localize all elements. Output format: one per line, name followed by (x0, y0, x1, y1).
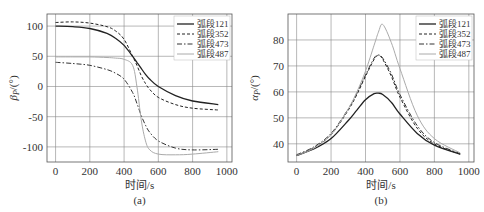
x-axis-label-a: 时间/s (125, 179, 154, 191)
x-tick-label: 0 (294, 165, 300, 177)
legend-label: 弧段352 (197, 28, 229, 39)
y-tick-label: 0 (38, 80, 44, 92)
series-line (56, 62, 219, 150)
x-tick-label: 400 (357, 165, 374, 177)
y-tick-label: 50 (273, 112, 285, 124)
x-tick-label: 400 (116, 165, 133, 177)
y-ticks-a: 100500-50-100 (23, 20, 44, 153)
y-axis-label-a: βP/(°) (7, 75, 21, 101)
x-tick-label: 0 (53, 165, 59, 177)
x-tick-label: 200 (82, 165, 99, 177)
series-line (297, 93, 461, 156)
legend-label: 弧段473 (439, 38, 471, 49)
x-axis-label-b: 时间/s (366, 179, 395, 191)
legend-label: 弧段487 (197, 48, 229, 59)
legend-b: 弧段121弧段352弧段473弧段487 (416, 16, 472, 60)
x-ticks-b: 02004006008001000 (294, 165, 480, 177)
y-tick-label: 100 (27, 20, 44, 32)
series-line (297, 56, 461, 156)
chart-panel-b: 02004006008001000 8070605040 弧段121弧段352弧… (248, 14, 480, 207)
x-tick-label: 200 (323, 165, 340, 177)
legend-label: 弧段121 (197, 18, 229, 29)
y-axis-unit-a: /(°) (7, 75, 20, 90)
y-axis-label-b: αP/(°) (248, 75, 262, 101)
panel-label-b: (b) (375, 194, 388, 207)
chart-panel-a: 02004006008001000 100500-50-100 弧段121弧段3… (7, 14, 238, 207)
legend-label: 弧段121 (439, 18, 471, 29)
series-line (56, 57, 219, 155)
x-tick-label: 600 (150, 165, 167, 177)
panel-label-a: (a) (133, 194, 146, 207)
legend-label: 弧段487 (439, 48, 471, 59)
x-ticks-a: 02004006008001000 (53, 165, 239, 177)
y-tick-label: -100 (23, 141, 44, 153)
x-tick-label: 600 (392, 165, 409, 177)
y-tick-label: 70 (273, 60, 285, 72)
y-ticks-b: 8070605040 (273, 34, 285, 150)
x-tick-label: 1000 (458, 165, 481, 177)
y-tick-label: 40 (273, 138, 285, 150)
legend-label: 弧段352 (439, 28, 471, 39)
x-tick-label: 800 (426, 165, 443, 177)
x-tick-label: 1000 (216, 165, 239, 177)
legend-a: 弧段121弧段352弧段473弧段487 (174, 16, 230, 60)
legend-label: 弧段473 (197, 38, 229, 49)
y-tick-label: -50 (28, 111, 43, 123)
y-tick-label: 80 (273, 34, 285, 46)
y-tick-label: 50 (32, 50, 44, 62)
y-tick-label: 60 (273, 86, 285, 98)
x-tick-label: 800 (184, 165, 201, 177)
figure: 02004006008001000 100500-50-100 弧段121弧段3… (0, 0, 484, 212)
y-axis-unit-b: /(°) (248, 75, 261, 90)
